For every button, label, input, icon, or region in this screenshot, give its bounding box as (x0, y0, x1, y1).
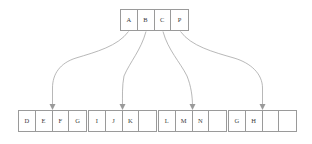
leaf-4-cell-3[interactable] (279, 111, 296, 131)
leaf-1-cell-1[interactable]: E (36, 111, 53, 131)
leaf-node-2[interactable]: I J K (88, 110, 157, 132)
leaf-2-cell-1[interactable]: J (106, 111, 123, 131)
root-cell-1[interactable]: B (138, 10, 155, 30)
edge-root-to-leaf-1 (53, 32, 129, 108)
leaf-4-cell-2[interactable] (263, 111, 280, 131)
root-cell-0[interactable]: A (121, 10, 138, 30)
leaf-3-cell-3[interactable] (209, 111, 226, 131)
leaf-1-cell-3[interactable]: G (69, 111, 86, 131)
leaf-node-4[interactable]: G H (228, 110, 297, 132)
edge-root-to-leaf-2 (122, 32, 146, 108)
leaf-4-cell-0[interactable]: G (229, 111, 246, 131)
leaf-4-cell-1[interactable]: H (246, 111, 263, 131)
leaf-2-cell-0[interactable]: I (89, 111, 106, 131)
root-cell-2[interactable]: C (155, 10, 172, 30)
leaf-3-cell-1[interactable]: M (176, 111, 193, 131)
leaf-3-cell-0[interactable]: L (159, 111, 176, 131)
root-cell-3[interactable]: P (171, 10, 188, 30)
root-node[interactable]: A B C P (120, 9, 189, 31)
leaf-3-cell-2[interactable]: N (193, 111, 210, 131)
leaf-2-cell-3[interactable] (139, 111, 156, 131)
leaf-1-cell-2[interactable]: F (53, 111, 70, 131)
leaf-2-cell-2[interactable]: K (123, 111, 140, 131)
leaf-node-3[interactable]: L M N (158, 110, 227, 132)
leaf-1-cell-0[interactable]: D (19, 111, 36, 131)
leaf-node-1[interactable]: D E F G (18, 110, 87, 132)
edge-root-to-leaf-3 (163, 32, 193, 108)
diagram-canvas: A B C P D E F G I J K L M N G H (0, 0, 312, 144)
edge-root-to-leaf-4 (181, 32, 263, 108)
